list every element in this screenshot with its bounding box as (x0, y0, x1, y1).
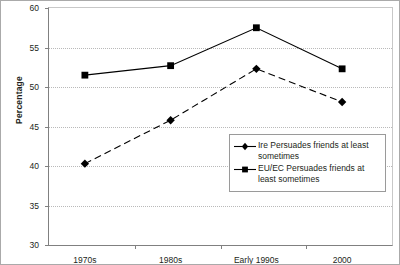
x-tick-label: 1980s (159, 255, 182, 265)
data-series-layer (49, 8, 392, 245)
y-tick-label: 35 (13, 201, 39, 211)
square-marker-icon (234, 164, 256, 175)
data-point-marker[interactable] (253, 24, 260, 31)
y-tick-label: 50 (13, 82, 39, 92)
plot-inner: 30354045505560 1970s1980sEarly 1990s2000 (49, 8, 392, 245)
plot-area: 30354045505560 1970s1980sEarly 1990s2000 (48, 7, 393, 246)
y-tick-label: 40 (13, 161, 39, 171)
legend-item-ire[interactable]: Ire Persuades friends at least sometimes (234, 140, 381, 161)
x-tick-mark (306, 245, 307, 249)
legend-label-eu-ec: EU/EC Persuades friends at least sometim… (258, 163, 381, 184)
data-point-marker[interactable] (339, 65, 346, 72)
data-point-marker[interactable] (81, 159, 89, 167)
chart-legend: Ire Persuades friends at least sometimes… (229, 134, 386, 192)
x-tick-mark (221, 245, 222, 249)
y-tick-label: 55 (13, 43, 39, 53)
data-point-marker[interactable] (81, 72, 88, 79)
x-tick-label: 2000 (333, 255, 352, 265)
data-point-marker[interactable] (338, 98, 346, 106)
y-tick-label: 45 (13, 122, 39, 132)
chart-figure: Percentage 30354045505560 1970s1980sEarl… (0, 0, 400, 265)
data-point-marker[interactable] (167, 62, 174, 69)
y-tick-label: 60 (13, 3, 39, 13)
x-tick-label: 1970s (73, 255, 96, 265)
legend-item-eu-ec[interactable]: EU/EC Persuades friends at least sometim… (234, 163, 381, 184)
data-point-marker[interactable] (252, 65, 260, 73)
x-tick-label: Early 1990s (234, 255, 279, 265)
legend-label-ire: Ire Persuades friends at least sometimes (258, 140, 381, 161)
x-tick-mark (135, 245, 136, 249)
y-tick-label: 30 (13, 240, 39, 250)
diamond-marker-icon (234, 141, 256, 152)
y-tick-mark (45, 245, 49, 246)
series-line-2 (85, 28, 342, 75)
data-point-marker[interactable] (166, 116, 174, 124)
